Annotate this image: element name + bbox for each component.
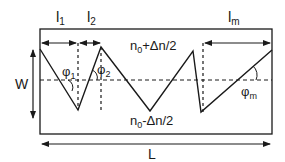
width-label: W xyxy=(15,76,29,92)
waveguide-diagram: l1 l2 lm n0+Δn/2 n0-Δn/2 φ1 φ2 φm W L xyxy=(0,0,285,162)
angle-arc-phim xyxy=(253,66,257,80)
lm-label: lm xyxy=(228,8,240,27)
length-label: L xyxy=(148,146,156,162)
l2-label: l2 xyxy=(87,8,96,27)
lower-refractive-index-label: n0-Δn/2 xyxy=(130,113,173,130)
phim-angle-label: φm xyxy=(241,84,257,101)
l1-label: l1 xyxy=(56,8,65,27)
upper-refractive-index-label: n0+Δn/2 xyxy=(130,38,177,55)
phi2-angle-label: φ2 xyxy=(97,62,110,79)
phi1-angle-label: φ1 xyxy=(62,64,75,81)
angle-arc-phi1 xyxy=(68,80,73,91)
